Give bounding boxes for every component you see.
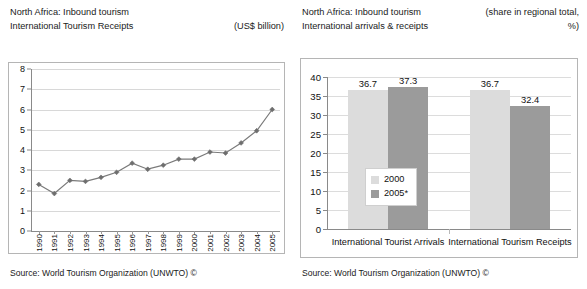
bar-value-label: 32.4 xyxy=(521,94,539,105)
right-header-line1: North Africa: Inbound tourism (share in … xyxy=(302,6,579,19)
right-header-line2: International arrivals & receipts %) xyxy=(302,20,579,33)
right-units-note-line1: (share in regional total, xyxy=(486,6,579,19)
left-header-line1: North Africa: Inbound tourism xyxy=(10,6,284,19)
legend-swatch-icon xyxy=(371,176,379,184)
category-label: International Tourism Receipts xyxy=(448,237,571,247)
y-axis-label: 40 xyxy=(304,72,321,83)
left-chart-panel: North Africa: Inbound tourism Internatio… xyxy=(0,0,292,289)
category-separator xyxy=(449,229,450,234)
legend-item: 2000 xyxy=(371,173,408,187)
bar-value-label: 37.3 xyxy=(399,75,417,86)
two-chart-figure: North Africa: Inbound tourism Internatio… xyxy=(0,0,587,289)
right-units-note-line2: %) xyxy=(568,20,579,33)
y-axis-label: 5 xyxy=(304,205,321,216)
right-chart-title: North Africa: Inbound tourism xyxy=(302,6,421,19)
bar-value-label: 36.7 xyxy=(359,78,377,89)
chart-legend: 20002005* xyxy=(365,168,417,206)
legend-item: 2005* xyxy=(371,187,408,201)
line-chart-plot-area: 0123456781990199119921993199419951996199… xyxy=(8,62,285,254)
left-source-note: Source: World Tourism Organization (UNWT… xyxy=(10,268,197,278)
y-axis-label: 0 xyxy=(304,224,321,235)
left-header-line2: International Tourism Receipts (US$ bill… xyxy=(10,20,284,33)
right-chart-panel: North Africa: Inbound tourism (share in … xyxy=(292,0,587,289)
bar-2005 xyxy=(510,106,550,229)
line-series-2005 xyxy=(9,63,284,253)
y-axis-line xyxy=(327,77,328,229)
category-label: International Tourist Arrivals xyxy=(332,237,445,247)
bar-2000 xyxy=(470,90,510,230)
y-axis-label: 30 xyxy=(304,110,321,121)
right-chart-subtitle: International arrivals & receipts xyxy=(302,20,428,33)
left-chart-subtitle: International Tourism Receipts xyxy=(10,20,133,33)
y-axis-label: 35 xyxy=(304,91,321,102)
bar-2000 xyxy=(348,90,388,230)
bar-2005 xyxy=(388,87,428,229)
legend-label: 2005* xyxy=(384,187,408,201)
y-axis-label: 15 xyxy=(304,167,321,178)
right-source-note: Source: World Tourism Organization (UNWT… xyxy=(302,268,489,278)
y-axis-label: 10 xyxy=(304,186,321,197)
bar-chart-plot-area: 051015202530354036.737.3International To… xyxy=(300,58,578,258)
legend-label: 2000 xyxy=(384,173,404,187)
bar-value-label: 36.7 xyxy=(481,78,499,89)
y-axis-label: 25 xyxy=(304,129,321,140)
left-units-note: (US$ billion) xyxy=(234,20,284,33)
y-axis-label: 20 xyxy=(304,148,321,159)
legend-swatch-icon xyxy=(371,190,379,198)
left-chart-title: North Africa: Inbound tourism xyxy=(10,6,129,19)
